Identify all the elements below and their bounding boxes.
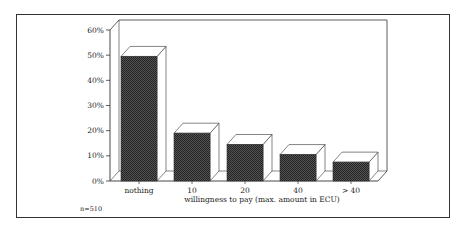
floor-left-edge — [110, 171, 119, 181]
bar-front — [121, 56, 157, 181]
sample-size-label: n=510 — [80, 205, 102, 213]
x-tick-label: 20 — [240, 186, 250, 195]
y-tick-label: 40% — [87, 76, 104, 85]
bar-40 — [280, 145, 325, 181]
x-tick-label: > 40 — [342, 186, 360, 195]
bar-side — [157, 46, 166, 181]
bar-chart: 0%10%20%30%40%50%60%nothing102040> 40wil… — [0, 0, 466, 232]
bar--40 — [333, 152, 378, 181]
bar-10 — [174, 123, 219, 181]
x-tick-label: nothing — [124, 186, 153, 195]
y-tick-label: 20% — [87, 126, 104, 135]
bar-front — [333, 162, 369, 181]
y-tick-label: 60% — [87, 26, 104, 35]
y-tick-label: 0% — [92, 177, 104, 186]
x-tick-label: 40 — [293, 186, 303, 195]
bar-front — [174, 133, 210, 181]
y-tick-label: 10% — [87, 151, 104, 160]
bar-front — [280, 155, 316, 181]
bar-nothing — [121, 46, 166, 181]
y-tick-label: 50% — [87, 51, 104, 60]
bar-front — [227, 145, 263, 181]
x-tick-label: 10 — [187, 186, 197, 195]
bars — [121, 46, 378, 181]
x-axis-title: willingness to pay (max. amount in ECU) — [184, 195, 340, 204]
y-tick-label: 30% — [87, 101, 104, 110]
bar-20 — [227, 135, 272, 181]
